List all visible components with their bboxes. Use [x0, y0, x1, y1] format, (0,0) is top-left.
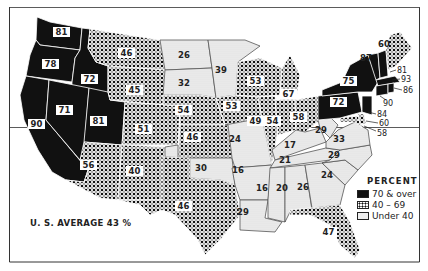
label-ms: 16 [256, 183, 268, 193]
label-va: 33 [333, 134, 345, 144]
label-ga: 26 [297, 182, 309, 192]
label-id: 72 [84, 74, 96, 84]
legend-label: Under 40 [372, 211, 414, 221]
state-ri [388, 83, 394, 93]
label-vt: 87 [360, 53, 372, 63]
label-nj: 84 [377, 110, 387, 119]
label-wv: 29 [315, 125, 327, 135]
label-ks: 46 [187, 132, 199, 142]
label-pa: 72 [333, 97, 345, 107]
label-tx: 46 [178, 201, 190, 211]
state-ms [268, 167, 285, 222]
label-sd: 32 [178, 78, 190, 88]
label-ny: 75 [343, 76, 355, 86]
label-mi: 67 [283, 89, 295, 99]
label-il: 49 [250, 116, 262, 126]
legend-item-mid: 40 – 69 [357, 199, 425, 210]
legend-swatch-solid-icon [357, 190, 369, 198]
label-nc: 29 [328, 150, 340, 160]
label-nd: 26 [178, 50, 190, 60]
label-wi: 53 [250, 76, 262, 86]
legend-item-low: Under 40 [357, 210, 425, 221]
us-choropleth-map: 81 78 72 71 90 81 46 45 51 56 40 26 32 5… [0, 0, 428, 271]
label-nv: 71 [59, 105, 71, 115]
label-nm: 40 [129, 166, 141, 176]
label-tn: 21 [279, 155, 291, 165]
label-md: 58 [377, 129, 387, 138]
state-me [386, 32, 412, 70]
state-ct [376, 84, 388, 96]
label-ok: 30 [195, 163, 207, 173]
label-mo: 24 [229, 134, 241, 144]
label-oh: 58 [293, 112, 305, 122]
legend-label: 70 & over [372, 189, 416, 199]
state-co [122, 102, 180, 145]
label-ma: 93 [401, 75, 411, 84]
label-la: 29 [237, 207, 249, 217]
legend-item-high: 70 & over [357, 188, 425, 199]
label-in: 54 [267, 116, 279, 126]
label-ri: 86 [403, 86, 413, 95]
label-ct: 90 [383, 99, 393, 108]
legend-swatch-crosshatch-icon [357, 201, 369, 209]
legend: PERCENT 70 & over 40 – 69 Under 40 [357, 176, 425, 221]
label-az: 56 [83, 160, 95, 170]
legend-title: PERCENT [367, 176, 425, 186]
map-svg: 81 78 72 71 90 81 46 45 51 56 40 26 32 5… [0, 0, 428, 271]
label-sc: 24 [321, 170, 333, 180]
label-ky: 17 [284, 140, 296, 150]
label-or: 78 [45, 59, 57, 69]
label-ut: 81 [93, 116, 105, 126]
legend-label: 40 – 69 [372, 200, 405, 210]
label-ar: 16 [232, 165, 244, 175]
label-mn: 39 [215, 65, 227, 75]
label-me: 60 [378, 39, 390, 49]
state-nj [362, 96, 372, 115]
label-al: 20 [276, 183, 288, 193]
label-wa: 81 [56, 27, 68, 37]
label-ne: 54 [178, 105, 190, 115]
label-nh: 81 [397, 66, 407, 75]
label-wy: 45 [129, 85, 141, 95]
us-average-label: U. S. AVERAGE 43 % [30, 218, 131, 228]
label-de: 60 [379, 119, 389, 128]
label-ca: 90 [31, 119, 43, 129]
label-co: 51 [138, 124, 150, 134]
label-ia: 53 [226, 101, 238, 111]
label-fl: 47 [323, 227, 335, 237]
label-mt: 46 [121, 48, 133, 58]
legend-swatch-stipple-icon [357, 212, 369, 220]
